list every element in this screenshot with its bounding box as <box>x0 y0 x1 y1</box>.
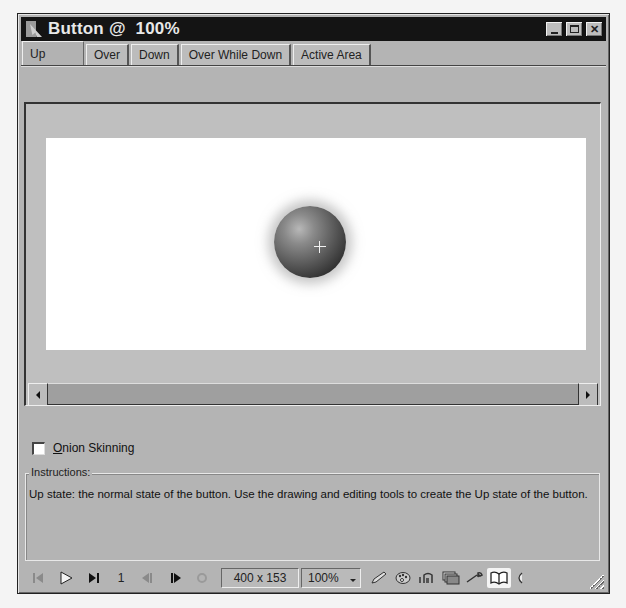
actions-button[interactable] <box>415 568 439 588</box>
tab-down[interactable]: Down <box>131 44 179 65</box>
actions-icon <box>417 571 437 585</box>
onion-skinning-option[interactable]: Onion Skinning <box>32 441 134 455</box>
wrench-button[interactable] <box>463 568 487 588</box>
window-title: Button @ 100% <box>48 19 180 39</box>
scroll-left-button[interactable] <box>28 383 48 405</box>
first-frame-button[interactable] <box>25 568 51 588</box>
close-icon: ✕ <box>590 24 599 35</box>
prev-frame-icon <box>141 572 153 584</box>
play-icon <box>59 571 73 585</box>
palette-button[interactable] <box>391 568 415 588</box>
zoom-select[interactable]: 100% <box>301 568 361 588</box>
minimize-button[interactable] <box>545 21 563 37</box>
next-frame-icon <box>170 572 182 584</box>
onion-skinning-label[interactable]: Onion Skinning <box>53 441 134 455</box>
play-button[interactable] <box>51 568 81 588</box>
stage-size-field[interactable]: 400 x 153 <box>221 568 299 588</box>
loop-button[interactable] <box>189 568 215 588</box>
maximize-icon <box>570 25 579 33</box>
close-button[interactable]: ✕ <box>585 21 603 37</box>
registration-crosshair-icon <box>314 241 326 253</box>
arrow-right-icon <box>586 391 590 399</box>
current-frame: 1 <box>111 571 131 585</box>
maximize-button[interactable] <box>565 21 583 37</box>
first-frame-icon <box>32 572 44 584</box>
resize-grip-icon[interactable] <box>590 575 604 589</box>
app-icon <box>25 20 43 38</box>
next-frame-button[interactable] <box>163 568 189 588</box>
button-editor-window: Button @ 100% ✕ Up Over Down Over While … <box>17 13 610 594</box>
tab-over-while-down[interactable]: Over While Down <box>181 44 291 65</box>
book-button[interactable] <box>487 568 511 588</box>
palette-icon <box>394 571 412 585</box>
sphere-button-graphic[interactable] <box>274 206 346 278</box>
tab-divider <box>21 65 606 67</box>
chevron-down-icon <box>350 579 356 582</box>
pencil-button[interactable] <box>367 568 391 588</box>
tab-up[interactable]: Up <box>22 41 84 65</box>
last-frame-button[interactable] <box>81 568 107 588</box>
library-button[interactable] <box>439 568 463 588</box>
stage-canvas[interactable] <box>46 138 586 350</box>
minimize-icon <box>551 32 558 34</box>
instructions-text: Up state: the normal state of the button… <box>29 487 591 502</box>
loop-icon <box>196 572 208 584</box>
sound-icon <box>514 571 524 585</box>
prev-frame-button[interactable] <box>131 568 163 588</box>
tab-over[interactable]: Over <box>86 44 129 65</box>
instructions-group: Instructions: Up state: the normal state… <box>25 473 600 561</box>
zoom-value: 100% <box>308 571 339 585</box>
pencil-icon <box>370 571 388 585</box>
library-icon <box>441 571 461 585</box>
tab-active-area[interactable]: Active Area <box>293 44 371 65</box>
instructions-legend: Instructions: <box>29 466 92 478</box>
status-bar: 1 400 x 153 100% <box>21 565 606 591</box>
scroll-track[interactable] <box>48 383 578 404</box>
sound-button[interactable] <box>511 568 527 588</box>
onion-skinning-checkbox[interactable] <box>32 442 45 455</box>
last-frame-icon <box>88 572 100 584</box>
stage-panel <box>24 102 601 406</box>
state-tabs: Up Over Down Over While Down Active Area <box>21 41 606 65</box>
book-icon <box>489 571 509 585</box>
arrow-left-icon <box>36 391 40 399</box>
scroll-right-button[interactable] <box>578 383 598 405</box>
title-bar[interactable]: Button @ 100% ✕ <box>21 17 606 41</box>
horizontal-scrollbar[interactable] <box>28 383 598 405</box>
wrench-icon <box>465 571 485 585</box>
